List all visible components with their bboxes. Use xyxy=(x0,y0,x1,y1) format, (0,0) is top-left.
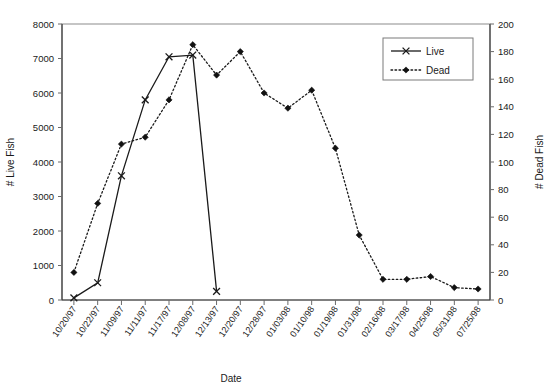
right-axis-tick-label: 20 xyxy=(498,267,509,278)
data-point-dead xyxy=(404,276,410,282)
left-axis-title: # Live Fish xyxy=(5,138,16,186)
left-axis-tick-label: 6000 xyxy=(33,88,54,99)
series-line-dead xyxy=(74,45,478,289)
data-point-dead xyxy=(95,200,101,206)
x-axis-title: Date xyxy=(220,373,242,384)
data-point-dead xyxy=(380,276,386,282)
right-axis-tick-label: 60 xyxy=(498,212,509,223)
left-axis-tick-label: 8000 xyxy=(33,19,54,30)
data-point-dead xyxy=(118,141,124,147)
right-axis-tick-label: 0 xyxy=(498,295,503,306)
right-axis-tick-label: 40 xyxy=(498,239,509,250)
data-point-dead xyxy=(261,90,267,96)
right-axis-tick-label: 200 xyxy=(498,19,514,30)
right-axis-title: # Dead Fish xyxy=(534,135,545,189)
chart-container: 010002000300040005000600070008000# Live … xyxy=(0,0,557,392)
data-point-dead xyxy=(237,49,243,55)
data-point-live xyxy=(142,97,149,104)
left-axis-tick-label: 4000 xyxy=(33,157,54,168)
data-point-dead xyxy=(451,285,457,291)
left-axis-tick-label: 1000 xyxy=(33,260,54,271)
legend-label-live: Live xyxy=(426,46,445,57)
left-axis-tick-label: 7000 xyxy=(33,53,54,64)
left-axis-tick-label: 2000 xyxy=(33,226,54,237)
left-axis-tick-label: 3000 xyxy=(33,191,54,202)
data-point-dead xyxy=(166,97,172,103)
right-axis-tick-label: 160 xyxy=(498,74,514,85)
right-axis-tick-label: 180 xyxy=(498,46,514,57)
right-axis-tick-label: 80 xyxy=(498,184,509,195)
series-line-live xyxy=(74,55,217,298)
right-axis-tick-label: 140 xyxy=(498,101,514,112)
legend-label-dead: Dead xyxy=(426,65,450,76)
data-point-dead xyxy=(332,145,338,151)
right-axis-tick-label: 100 xyxy=(498,157,514,168)
x-axis-tick-label: 07/25/98 xyxy=(454,304,482,338)
data-point-dead xyxy=(142,134,148,140)
left-axis-tick-label: 0 xyxy=(49,295,54,306)
data-point-dead xyxy=(71,269,77,275)
data-point-dead xyxy=(475,286,481,292)
right-axis-tick-label: 120 xyxy=(498,129,514,140)
data-point-dead xyxy=(356,232,362,238)
x-axis-tick-label: 11/09/97 xyxy=(98,304,126,338)
left-axis-tick-label: 5000 xyxy=(33,122,54,133)
data-point-dead xyxy=(428,273,434,279)
fish-counts-line-chart: 010002000300040005000600070008000# Live … xyxy=(0,0,557,392)
